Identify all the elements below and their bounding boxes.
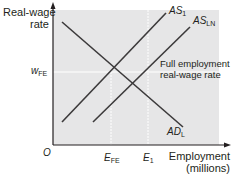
origin-label: O — [43, 148, 51, 158]
x-axis-title-line1: Employment — [168, 150, 230, 162]
y-axis-title: Real-wage rate — [3, 6, 49, 30]
x-axis-arrow-icon — [224, 143, 231, 148]
as1-label: AS1 — [169, 6, 186, 17]
e1-label: E1 — [143, 153, 154, 164]
x-axis-title-line2: (millions) — [168, 162, 230, 174]
adl-label: ADL — [167, 127, 185, 138]
y-axis-title-line1: Real-wage — [3, 6, 49, 18]
x-axis-title: Employment (millions) — [168, 150, 230, 174]
y-axis-title-line2: rate — [3, 18, 49, 30]
efe-label: EFE — [104, 153, 120, 164]
wfe-label: wFE — [31, 66, 47, 77]
full-employment-note: Full employment real-wage rate — [160, 58, 230, 80]
asln-label: ASLN — [193, 16, 215, 27]
